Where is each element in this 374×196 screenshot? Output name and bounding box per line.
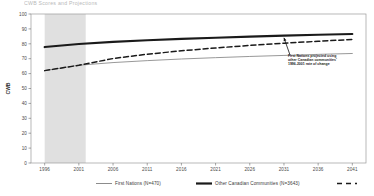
- svg-text:50: 50: [22, 86, 28, 91]
- chart-figure: CWB Scores and Projections 0102030405060…: [0, 0, 374, 196]
- svg-text:2026: 2026: [244, 167, 255, 172]
- svg-text:80: 80: [22, 42, 28, 47]
- svg-text:2021: 2021: [210, 167, 221, 172]
- svg-text:90: 90: [22, 27, 28, 32]
- line-chart-svg: 0102030405060708090100 19962001200620112…: [0, 8, 374, 178]
- y-axis-ticks: 0102030405060708090100: [19, 12, 31, 166]
- chart-legend: First Nations (N=470) Other Canadian Com…: [0, 178, 374, 194]
- svg-text:2036: 2036: [313, 167, 324, 172]
- observed-period-shading: [45, 14, 86, 163]
- legend-swatch-other-canadian: [196, 181, 212, 186]
- plot-area: 0102030405060708090100 19962001200620112…: [0, 8, 374, 178]
- svg-text:2016: 2016: [176, 167, 187, 172]
- svg-text:2006: 2006: [108, 167, 119, 172]
- annotation-arrow-head: [284, 38, 287, 42]
- svg-text:1996: 1996: [39, 167, 50, 172]
- x-axis-ticks: 1996200120062011201620212026203120362041: [39, 163, 358, 172]
- svg-text:0: 0: [24, 161, 27, 166]
- svg-text:1996-2001 rate of change: 1996-2001 rate of change: [288, 62, 330, 66]
- svg-text:40: 40: [22, 101, 28, 106]
- svg-text:2041: 2041: [347, 167, 358, 172]
- legend-label-other-canadian: Other Canadian Communities (N=3643): [215, 181, 300, 186]
- svg-text:2031: 2031: [279, 167, 290, 172]
- legend-swatch-first-nations: [96, 181, 112, 186]
- legend-label-first-nations: First Nations (N=470): [115, 181, 161, 186]
- svg-text:20: 20: [22, 131, 28, 136]
- chart-title: CWB Scores and Projections: [24, 0, 224, 8]
- y-axis-title: CWB: [5, 82, 11, 94]
- svg-text:30: 30: [22, 116, 28, 121]
- svg-text:10: 10: [22, 146, 28, 151]
- legend-swatch-projection: [337, 181, 357, 186]
- legend-item-projection[interactable]: [337, 181, 360, 186]
- legend-item-first-nations[interactable]: First Nations (N=470): [96, 181, 161, 186]
- legend-item-other-canadian[interactable]: Other Canadian Communities (N=3643): [196, 181, 300, 186]
- svg-text:2011: 2011: [142, 167, 153, 172]
- svg-text:70: 70: [22, 56, 28, 61]
- annotation-label: First Nations projected usingother Canad…: [288, 54, 337, 66]
- svg-text:60: 60: [22, 71, 28, 76]
- svg-text:100: 100: [19, 12, 27, 17]
- svg-text:2001: 2001: [74, 167, 85, 172]
